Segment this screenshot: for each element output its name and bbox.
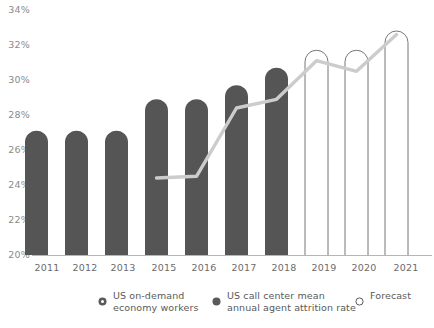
legend-label: US call center mean annual agent attriti…: [227, 290, 356, 314]
bar: [345, 50, 368, 255]
bar: [305, 50, 328, 255]
chart-container: 34% 32% 30% 28% 26% 24% 22% 20% 2011 201…: [0, 0, 434, 328]
bar: [385, 31, 408, 255]
x-axis-tick-label: 2011: [27, 262, 67, 273]
legend-item-on-demand[interactable]: US on-demand economy workers: [98, 290, 198, 314]
legend-item-forecast[interactable]: Forecast: [355, 290, 411, 310]
donut-marker-icon: [98, 291, 107, 310]
outline-circle-marker-icon: [355, 291, 364, 310]
x-axis-tick-label: 2013: [103, 262, 143, 273]
bar: [65, 131, 88, 255]
bar: [265, 68, 288, 255]
x-axis-tick-label: 2020: [344, 262, 384, 273]
x-axis-tick-label: 2018: [264, 262, 304, 273]
x-axis-tick-label: 2015: [144, 262, 184, 273]
x-axis-tick-label: 2016: [184, 262, 224, 273]
x-axis-tick-label: 2019: [304, 262, 344, 273]
bar-series-forecast: [305, 31, 408, 255]
bar: [105, 131, 128, 255]
x-axis-tick-label: 2012: [65, 262, 105, 273]
bar-series-on-demand: [25, 68, 288, 255]
legend-label: Forecast: [370, 290, 411, 302]
bar: [25, 131, 48, 255]
chart-graphics: [0, 0, 434, 285]
legend-item-attrition[interactable]: US call center mean annual agent attriti…: [212, 290, 356, 314]
chart-legend: US on-demand economy workers US call cen…: [0, 290, 434, 328]
filled-circle-marker-icon: [212, 291, 221, 310]
x-axis-tick-label: 2021: [386, 262, 426, 273]
legend-label: US on-demand economy workers: [113, 290, 198, 314]
plot-area: 34% 32% 30% 28% 26% 24% 22% 20% 2011 201…: [0, 0, 434, 285]
x-axis-tick-label: 2017: [224, 262, 264, 273]
